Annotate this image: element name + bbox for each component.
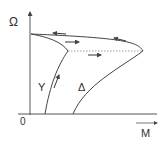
origin-label: 0 [20, 117, 26, 127]
star-curve [31, 34, 68, 114]
arrow-left-icon [53, 33, 66, 34]
star-label: Y [38, 82, 45, 93]
x-axis-label: M [141, 128, 150, 139]
delta-label: Δ [78, 82, 85, 93]
y-axis-label: Ω [9, 16, 18, 28]
